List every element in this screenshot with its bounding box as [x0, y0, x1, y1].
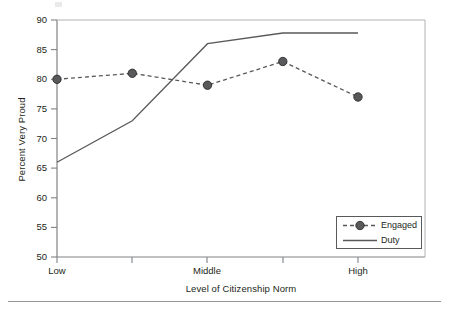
series-line-duty: [57, 33, 358, 162]
legend: Engaged Duty: [336, 216, 422, 249]
series-line-engaged: [57, 62, 358, 98]
xtick-label-high: High: [328, 266, 388, 276]
legend-label-duty: Duty: [381, 234, 400, 247]
y-axis-title: Percent Very Proud: [14, 21, 30, 258]
page-divider-rule: [8, 301, 441, 302]
legend-swatch-duty: [342, 233, 378, 248]
x-axis-ticks: [57, 257, 358, 263]
x-axis-title: Level of Citizenship Norm: [57, 283, 425, 294]
chart-figure: 90 85 80 75 70 65 60 55 50 Low Middle Hi…: [0, 0, 449, 311]
xtick-label-middle: Middle: [177, 266, 237, 276]
series-markers-engaged: [53, 57, 362, 101]
legend-item-duty: Duty: [337, 233, 421, 248]
legend-swatch-engaged: [342, 218, 378, 233]
legend-label-engaged: Engaged: [381, 219, 417, 232]
legend-item-engaged: Engaged: [337, 218, 421, 233]
plot-area: [0, 0, 449, 311]
y-axis-ticks: [51, 20, 57, 257]
xtick-label-low: Low: [27, 266, 87, 276]
